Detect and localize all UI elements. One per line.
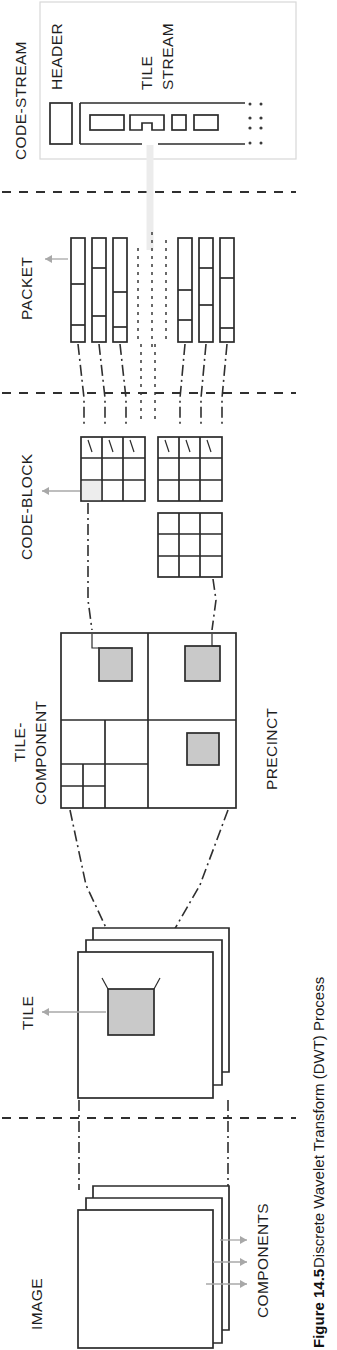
packet-ellipsis [138, 232, 166, 352]
figure-root: CODE-STREAM HEADER TILE STREAM PACKET CO… [0, 0, 337, 1350]
figure-canvas: CODE-STREAM HEADER TILE STREAM PACKET CO… [0, 0, 337, 1350]
image-group [78, 1186, 247, 1348]
label-packet: PACKET [18, 257, 35, 320]
tile-stream-segment-2 [130, 115, 164, 130]
image-sheet-1 [78, 1210, 213, 1348]
tile-stream-segment-4 [194, 115, 218, 130]
figure-caption-text: Discrete Wavelet Transform (DWT) Process [310, 977, 327, 1268]
label-tile: TILE [19, 996, 36, 1030]
packet-bar-4 [178, 238, 192, 342]
label-code-stream: CODE-STREAM [12, 41, 29, 160]
packet-bar-1 [71, 238, 85, 342]
tile-component-group [61, 633, 236, 808]
packet-callout-arrow [45, 255, 68, 263]
label-components: COMPONENTS [254, 1203, 271, 1318]
packet-bar-6 [220, 238, 234, 342]
label-precinct: PRECINCT [263, 707, 280, 790]
figure-caption-number: Figure 14.5 [310, 1269, 327, 1348]
code-block-grid-3 [158, 513, 222, 577]
tile-to-image-connectors [79, 1100, 228, 1190]
packet-bar-2 [92, 238, 106, 342]
tile-highlight [108, 989, 154, 1035]
label-tile-component-line1: TILE- [11, 722, 28, 762]
tile-group [42, 928, 229, 1098]
packet-bar-5 [199, 238, 213, 342]
packet-bar-3 [113, 238, 127, 342]
code-block-callout-arrow [42, 487, 80, 495]
label-tile-component-line2: COMPONENT [32, 701, 49, 805]
tilecomponent-to-tile-connectors [70, 810, 228, 932]
packet-to-codeblock-connectors [78, 344, 227, 424]
precinct-highlight-3 [187, 733, 219, 765]
precinct-highlight-2 [185, 646, 220, 681]
label-header: HEADER [48, 23, 65, 90]
packet-group [45, 232, 234, 352]
tile-stream-segment-1 [90, 115, 124, 130]
header-box [50, 103, 72, 144]
label-tile-stream-line2: STREAM [159, 23, 176, 90]
label-image: IMAGE [28, 1278, 45, 1330]
code-stream-continuation-dots [248, 103, 262, 145]
tile-stream-segment-3 [172, 115, 186, 130]
code-block-group [42, 437, 222, 577]
code-block-grid-2 [158, 437, 222, 501]
code-block-highlighted-cell [82, 481, 101, 500]
precinct-highlight-1 [99, 648, 132, 681]
label-code-block: CODE-BLOCK [18, 453, 35, 560]
code-block-grid-1 [81, 437, 145, 501]
label-tile-stream-line1: TILE [138, 56, 155, 90]
